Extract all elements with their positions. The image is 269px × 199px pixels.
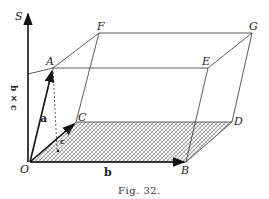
figure-caption: Fig. 32. xyxy=(118,185,161,196)
label-vector-bxc: b × c xyxy=(9,85,19,111)
label-E: E xyxy=(201,55,210,68)
label-B: B xyxy=(180,164,189,177)
label-vector-b: b xyxy=(104,166,112,179)
label-vector-a: a xyxy=(40,112,47,125)
label-D: D xyxy=(233,115,243,128)
label-C: C xyxy=(78,111,87,124)
parallelepiped-diagram: S A F G E C D B O a b c b × c Fig. 32. xyxy=(0,0,269,199)
foot-point xyxy=(57,150,59,152)
top-face xyxy=(28,33,252,74)
label-F: F xyxy=(96,20,105,33)
label-S: S xyxy=(15,10,23,23)
label-vector-c: c xyxy=(60,136,65,146)
label-O: O xyxy=(20,163,29,176)
label-A: A xyxy=(45,55,54,68)
label-G: G xyxy=(249,20,258,33)
